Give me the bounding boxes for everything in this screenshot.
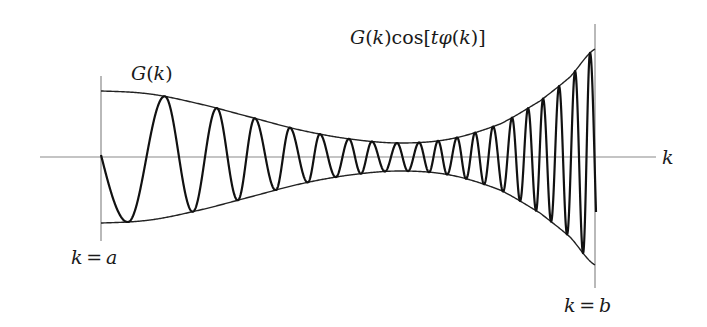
oscillatory-integrand-diagram xyxy=(0,0,707,327)
k-equals-b-label: k = b xyxy=(564,296,611,315)
envelope-lower-curve xyxy=(101,171,595,265)
envelope-label: G(k) xyxy=(131,64,173,83)
function-label: G(k)cos[tφ(k)] xyxy=(350,28,486,47)
k-equals-a-label: k = a xyxy=(71,248,117,267)
axis-k-label: k xyxy=(662,148,674,167)
oscillating-function-curve xyxy=(101,53,596,253)
